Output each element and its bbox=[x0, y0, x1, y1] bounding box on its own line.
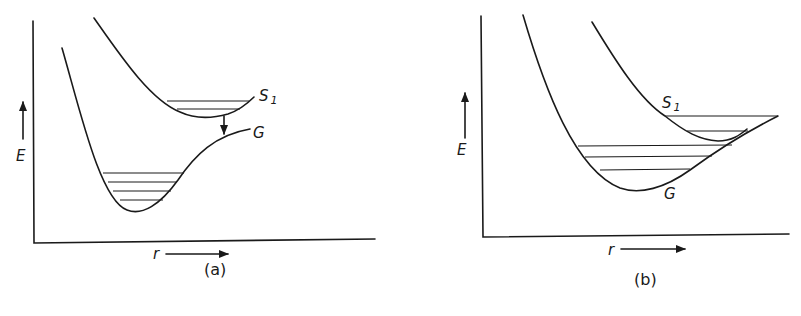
g-levels-a bbox=[103, 173, 184, 200]
axes-a bbox=[33, 21, 375, 243]
s1-levels-a bbox=[167, 101, 249, 109]
s1-curve-b bbox=[592, 22, 747, 141]
r-axis-label: r bbox=[608, 241, 615, 259]
panel-b: E r S1 G (b) bbox=[457, 15, 789, 289]
energy-axis-label: E bbox=[16, 147, 26, 165]
s1-label-b: S1 bbox=[662, 94, 681, 114]
g-curve-a bbox=[62, 48, 250, 212]
panel-a: E r S1 G (a) bbox=[16, 18, 375, 279]
potential-energy-diagram: E r S1 G (a) E r bbox=[0, 0, 801, 316]
caption-b: (b) bbox=[634, 270, 657, 289]
s1-curve-a bbox=[94, 18, 254, 118]
s1-label-a: S1 bbox=[259, 87, 278, 107]
g-label-a: G bbox=[253, 124, 265, 142]
g-curve-b bbox=[523, 15, 778, 191]
g-label-b: G bbox=[664, 185, 676, 203]
caption-a: (a) bbox=[204, 260, 226, 279]
r-axis-label: r bbox=[153, 245, 160, 263]
energy-axis-label: E bbox=[457, 141, 467, 159]
axes-b bbox=[481, 16, 789, 237]
